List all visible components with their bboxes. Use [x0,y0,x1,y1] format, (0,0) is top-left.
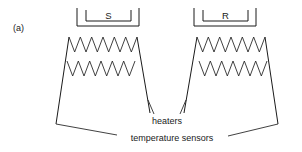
sample-heater-upper [69,37,137,52]
reference-cell-label: R [222,10,229,21]
sample-pan-body [56,37,150,124]
diagram-canvas: (a) S R heaters temperature sensors [0,0,302,152]
sample-heater-lower [67,61,135,76]
reference-heater-lower [199,61,267,76]
reference-pan-body [184,37,278,124]
temperature-sensors-leader-right [228,124,278,136]
temperature-sensors-leader-left [56,124,117,135]
sample-cell-label: S [105,10,111,21]
heaters-label: heaters [152,116,183,126]
reference-heater-upper [197,37,265,52]
temperature-sensors-label: temperature sensors [131,133,214,143]
part-label: (a) [13,23,24,33]
figure-dsc-cell-diagram: (a) S R heaters temperature sensors [0,0,302,152]
